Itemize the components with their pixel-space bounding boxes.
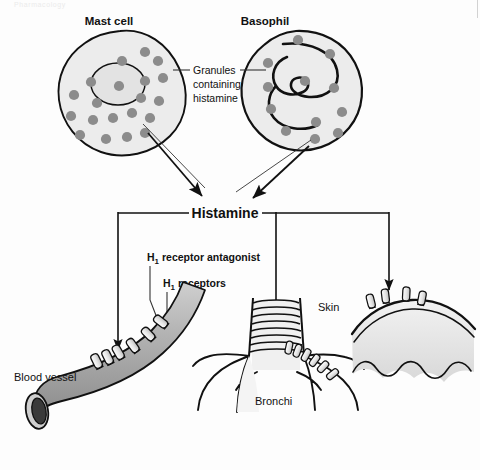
h1-antagonist-label: H1 receptor antagonist <box>147 251 260 266</box>
arrow-mast-to-histamine <box>148 133 202 196</box>
granules-label-line1: Granules <box>193 64 236 76</box>
granules-leader-basophil-lower <box>236 140 311 192</box>
h1-antagonist-rest: receptor antagonist <box>159 251 260 263</box>
basophil-label: Basophil <box>241 15 290 27</box>
skin-label: Skin <box>318 301 339 313</box>
receptor <box>381 289 390 304</box>
bronchi-group: Bronchi <box>193 298 364 412</box>
receptor <box>366 293 376 308</box>
diagram-svg: Mast cell Basophil <box>0 0 480 470</box>
h1-antagonist-leader <box>150 266 157 318</box>
h1-antagonist-prefix: H <box>147 251 155 263</box>
mast-cell-label: Mast cell <box>85 15 134 27</box>
figure-canvas: Pharmacology <box>0 0 480 470</box>
receptor <box>402 287 410 301</box>
granules-label-line2: containing <box>193 78 241 90</box>
mast-cell-group: Mast cell <box>58 15 185 155</box>
granules-label-line3: histamine <box>193 92 238 104</box>
granules-leader-mast-lower <box>143 124 205 188</box>
basophil-membrane <box>242 31 362 151</box>
blood-vessel-group: Blood vessel <box>14 282 205 431</box>
skin-group: Skin <box>318 287 475 382</box>
arrow-basophil-to-histamine <box>253 146 309 198</box>
h1-receptors-prefix: H <box>163 277 171 289</box>
receptor <box>325 368 339 381</box>
histamine-label: Histamine <box>192 205 259 221</box>
blood-vessel-label: Blood vessel <box>14 371 76 383</box>
basophil-group: Basophil <box>241 15 362 150</box>
bronchi-label: Bronchi <box>255 395 292 407</box>
